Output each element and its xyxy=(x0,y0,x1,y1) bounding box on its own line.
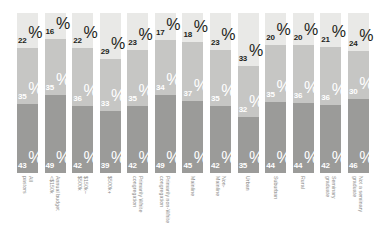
bar-segment[interactable]: 36% xyxy=(72,48,93,106)
category-tick: Non-Mainline xyxy=(210,176,231,252)
segment-value-label: 36 xyxy=(294,92,303,100)
bar-segment[interactable]: 18% xyxy=(182,13,203,42)
bar-column[interactable]: 16%35%49% xyxy=(45,13,66,173)
percent-sign: % xyxy=(304,149,318,167)
bar-column[interactable]: 22%35%43% xyxy=(17,13,38,173)
bar-segment[interactable]: 30% xyxy=(348,51,369,99)
bar-segment[interactable]: 45% xyxy=(182,101,203,173)
category-tick: All pastors xyxy=(17,176,38,252)
segment-value-label: 21 xyxy=(321,36,330,44)
segment-value-label: 16 xyxy=(46,28,55,36)
category-tick: Urban xyxy=(238,176,259,252)
segment-value-label: 45 xyxy=(183,162,192,170)
bar-segment[interactable]: 43% xyxy=(17,104,38,173)
bar-segment[interactable]: 49% xyxy=(155,95,176,173)
bar-segment[interactable]: 37% xyxy=(182,42,203,101)
category-tick: Primarily non-White congregation xyxy=(155,176,176,252)
bar-segment[interactable]: 35% xyxy=(210,50,231,106)
bar-column[interactable]: 22%36%42% xyxy=(72,13,93,173)
bar-segment[interactable]: 44% xyxy=(293,103,314,173)
bar-segment[interactable]: 35% xyxy=(265,45,286,102)
segment-value-label: 34 xyxy=(156,84,165,92)
percent-sign: % xyxy=(249,149,263,167)
bar-segment[interactable]: 42% xyxy=(320,105,341,173)
category-tick: Not a seminary graduate xyxy=(348,176,369,252)
category-tick: Seminary graduate xyxy=(320,176,341,252)
category-tick: Annual budget <$150k xyxy=(45,176,66,252)
segment-value-label: 36 xyxy=(321,94,330,102)
bar-segment[interactable]: 42% xyxy=(127,106,148,173)
category-tick: $150k–$500k xyxy=(72,176,93,252)
bar-segment[interactable]: 35% xyxy=(17,48,38,104)
bar-segment[interactable]: 20% xyxy=(265,13,286,45)
bar-segment[interactable]: 39% xyxy=(100,111,121,173)
segment-value-label: 35 xyxy=(46,84,55,92)
bar-column[interactable]: 17%34%49% xyxy=(155,13,176,173)
percent-sign: % xyxy=(111,87,125,105)
bar-segment[interactable]: 23% xyxy=(210,13,231,50)
segment-value-label: 33 xyxy=(101,100,110,108)
bar-segment[interactable]: 17% xyxy=(155,13,176,40)
bar-segment[interactable]: 34% xyxy=(155,40,176,94)
percent-sign: % xyxy=(28,24,42,42)
segment-value-label: 35 xyxy=(239,162,248,170)
bar-segment[interactable]: 29% xyxy=(100,13,121,59)
segment-value-label: 35 xyxy=(18,93,27,101)
bar-column[interactable]: 29%33%39% xyxy=(100,13,121,173)
segment-value-label: 44 xyxy=(266,162,275,170)
bar-column[interactable]: 18%37%45% xyxy=(182,13,203,173)
category-label: Primarily non-White congregation xyxy=(159,176,171,244)
bar-segment[interactable]: 32% xyxy=(238,66,259,117)
bar-segment[interactable]: 22% xyxy=(72,13,93,48)
bar-segment[interactable]: 46% xyxy=(348,99,369,173)
bar-segment[interactable]: 20% xyxy=(293,13,314,45)
percent-sign: % xyxy=(249,93,263,111)
bar-column[interactable]: 23%35%42% xyxy=(210,13,231,173)
percent-sign: % xyxy=(83,82,97,100)
segment-value-label: 46 xyxy=(349,162,358,170)
bar-segment[interactable]: 35% xyxy=(45,39,66,95)
bar-column[interactable]: 24%30%46% xyxy=(348,13,369,173)
segment-value-label: 39 xyxy=(101,162,110,170)
segment-value-label: 20 xyxy=(266,34,275,42)
bar-segment[interactable]: 33% xyxy=(238,13,259,66)
bar-column[interactable]: 33%32%35% xyxy=(238,13,259,173)
segment-value-label: 43 xyxy=(18,162,27,170)
bar-column[interactable]: 20%35%44% xyxy=(265,13,286,173)
percent-sign: % xyxy=(83,24,97,42)
bar-segment[interactable]: 23% xyxy=(127,13,148,50)
percent-sign: % xyxy=(332,23,346,41)
segment-value-label: 37 xyxy=(183,90,192,98)
bar-segment[interactable]: 44% xyxy=(265,102,286,173)
bar-column[interactable]: 21%36%42% xyxy=(320,13,341,173)
percent-sign: % xyxy=(277,78,291,96)
segment-value-label: 33 xyxy=(239,55,248,63)
bar-segment[interactable]: 42% xyxy=(72,106,93,173)
stacked-bar-chart: 22%35%43%16%35%49%22%36%42%29%33%39%23%3… xyxy=(0,0,388,252)
bar-segment[interactable]: 24% xyxy=(348,13,369,51)
bar-column[interactable]: 23%35%42% xyxy=(127,13,148,173)
bar-segment[interactable]: 36% xyxy=(320,47,341,105)
percent-sign: % xyxy=(277,21,291,39)
bar-segment[interactable]: 36% xyxy=(293,45,314,103)
bar-segment[interactable]: 35% xyxy=(238,117,259,173)
percent-sign: % xyxy=(111,149,125,167)
bar-segment[interactable]: 42% xyxy=(210,106,231,173)
category-label: Suburban xyxy=(273,176,279,199)
bar-segment[interactable]: 16% xyxy=(45,13,66,39)
bar-column[interactable]: 20%36%44% xyxy=(293,13,314,173)
bar-segment[interactable]: 35% xyxy=(127,50,148,106)
bar-segment[interactable]: 33% xyxy=(100,59,121,111)
percent-sign: % xyxy=(166,149,180,167)
percent-sign: % xyxy=(221,149,235,167)
segment-value-label: 42 xyxy=(73,162,82,170)
bar-segment[interactable]: 22% xyxy=(17,13,38,48)
bar-segment[interactable]: 49% xyxy=(45,95,66,173)
segment-value-label: 24 xyxy=(349,40,358,48)
bar-segment[interactable]: 21% xyxy=(320,13,341,47)
percent-sign: % xyxy=(56,15,70,33)
percent-sign: % xyxy=(139,26,153,44)
percent-sign: % xyxy=(111,35,125,53)
percent-sign: % xyxy=(194,77,208,95)
category-label: Seminary graduate xyxy=(325,176,337,244)
